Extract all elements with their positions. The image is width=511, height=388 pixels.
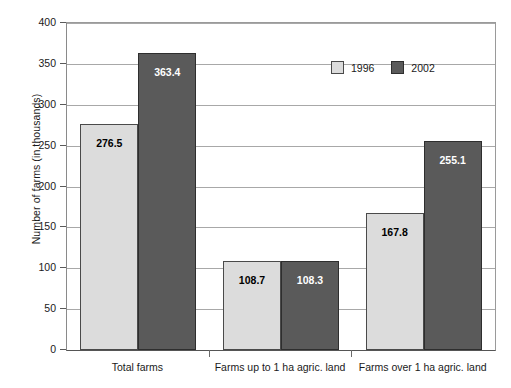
x-tick-mark [351, 350, 352, 357]
legend-swatch-icon-1996 [331, 61, 344, 74]
y-tick-label: 150 [10, 220, 56, 232]
x-tick-mark [209, 350, 210, 357]
gridline [67, 105, 495, 106]
y-tick-label: 350 [10, 57, 56, 69]
bar-value-label: 108.7 [224, 274, 280, 286]
bar-value-label: 363.4 [139, 66, 195, 78]
bar-value-label: 276.5 [81, 137, 137, 149]
y-tick-label: 200 [10, 180, 56, 192]
y-tick-label: 100 [10, 261, 56, 273]
y-tick-label: 250 [10, 139, 56, 151]
legend-label-2002: 2002 [411, 62, 434, 74]
y-tick-label: 50 [10, 302, 56, 314]
legend-label-1996: 1996 [351, 62, 374, 74]
bar-1996-3: 167.8 [366, 213, 424, 350]
y-axis-title: Number of farms (in thousands) [30, 59, 42, 279]
bar-2002-2: 108.3 [281, 261, 339, 350]
x-category-label: Total farms [112, 361, 163, 373]
gridline [67, 23, 495, 24]
bar-1996-2: 108.7 [223, 261, 281, 350]
legend-entry-1996: 1996 [331, 61, 374, 74]
y-tick-label: 300 [10, 98, 56, 110]
plot-area: 276.5363.4108.7108.3167.8255.1 1996 2002 [66, 22, 496, 351]
legend: 1996 2002 [331, 61, 435, 74]
x-category-label: Farms over 1 ha agric. land [359, 361, 487, 373]
bar-2002-3: 255.1 [424, 141, 482, 350]
bar-value-label: 255.1 [425, 154, 481, 166]
legend-entry-2002: 2002 [391, 61, 434, 74]
bar-value-label: 108.3 [282, 274, 338, 286]
bar-1996-1: 276.5 [80, 124, 138, 350]
legend-swatch-icon-2002 [391, 61, 404, 74]
bar-2002-1: 363.4 [138, 53, 196, 350]
bar-chart: Number of farms (in thousands) 050100150… [0, 0, 511, 388]
y-tick-label: 0 [10, 343, 56, 355]
bar-value-label: 167.8 [367, 226, 423, 238]
x-category-label: Farms up to 1 ha agric. land [215, 361, 346, 373]
y-tick-label: 400 [10, 16, 56, 28]
